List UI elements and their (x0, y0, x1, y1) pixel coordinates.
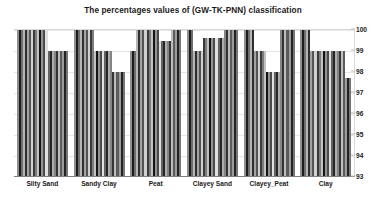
plot-area (14, 29, 355, 177)
y-tick-mark-93 (351, 176, 355, 177)
x-tick-label-peat: Peat (149, 180, 163, 187)
y-axis: 93949596979899100 (356, 29, 386, 176)
x-tick-label-silty-sand: Silty Sand (26, 180, 58, 187)
y-tick-label-100: 100 (356, 26, 382, 33)
bar (179, 30, 181, 177)
y-tick-mark-100 (351, 29, 355, 30)
y-tick-mark-94 (351, 155, 355, 156)
y-tick-mark-97 (351, 92, 355, 93)
bar (66, 51, 68, 177)
chart-container: The percentages values of (GW-TK-PNN) cl… (0, 0, 386, 203)
y-tick-label-97: 97 (356, 89, 382, 96)
x-tick-label-clayey-peat: Clayey_Peat (250, 180, 289, 187)
bars-layer (14, 30, 354, 177)
x-tick-label-clay: Clay (319, 180, 333, 187)
bar-group (244, 30, 295, 177)
y-tick-label-94: 94 (356, 152, 382, 159)
bar (123, 72, 125, 177)
y-tick-label-95: 95 (356, 131, 382, 138)
bar-group (300, 30, 351, 177)
x-tick-label-sandy-clay: Sandy Clay (81, 180, 117, 187)
y-tick-label-99: 99 (356, 47, 382, 54)
bar (236, 30, 238, 177)
y-tick-label-93: 93 (356, 173, 382, 180)
bar (349, 78, 351, 177)
chart-title: The percentages values of (GW-TK-PNN) cl… (0, 6, 386, 15)
y-tick-mark-98 (351, 71, 355, 72)
y-tick-label-96: 96 (356, 110, 382, 117)
x-tick-label-clayey-sand: Clayey Sand (193, 180, 232, 187)
y-tick-mark-96 (351, 113, 355, 114)
bar-group (130, 30, 181, 177)
y-tick-mark-99 (351, 50, 355, 51)
bar (293, 30, 295, 177)
y-tick-mark-95 (351, 134, 355, 135)
bar-group (74, 30, 125, 177)
bar-group (187, 30, 238, 177)
bar-group (17, 30, 68, 177)
x-axis: Silty SandSandy ClayPeatClayey SandClaye… (14, 180, 354, 194)
y-tick-label-98: 98 (356, 68, 382, 75)
x-axis-line (14, 176, 355, 177)
